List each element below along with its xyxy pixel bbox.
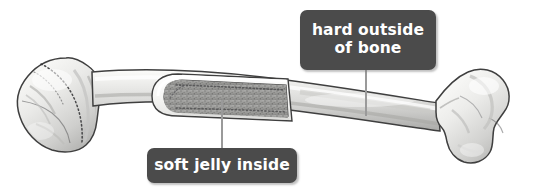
bone-cutaway-window bbox=[152, 74, 296, 121]
callout-soft-jelly-inside: soft jelly inside bbox=[147, 148, 297, 183]
callout-soft-jelly-text: soft jelly inside bbox=[154, 157, 290, 175]
bone-diagram-figure: hard outside of bone soft jelly inside bbox=[0, 0, 537, 191]
callout-hard-outside-of-bone: hard outside of bone bbox=[300, 10, 436, 70]
bone-left-end bbox=[17, 58, 100, 152]
callout-hard-outside-text: hard outside of bone bbox=[312, 22, 424, 58]
bone-right-end bbox=[436, 69, 509, 163]
